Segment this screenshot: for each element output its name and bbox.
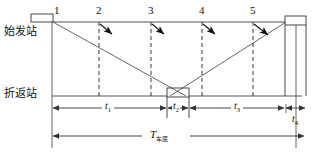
outbound-run-line bbox=[53, 22, 186, 96]
interval-t1-subscript: 1 bbox=[108, 106, 111, 113]
following-train-arrows bbox=[100, 24, 268, 35]
departure-station-label: 始发站 bbox=[4, 26, 37, 37]
train-number-2: 2 bbox=[96, 5, 102, 16]
frame-borders bbox=[52, 18, 296, 148]
headway-dashed-lines bbox=[99, 22, 253, 96]
interval-t1-label: t1 bbox=[102, 101, 114, 114]
origin-station-box bbox=[31, 14, 53, 22]
station-lines bbox=[52, 22, 302, 96]
interval-t4-subscript: 4 bbox=[295, 119, 298, 126]
return-run-line bbox=[170, 22, 286, 96]
interval-t3-label: t3 bbox=[231, 101, 243, 114]
train-number-3: 3 bbox=[148, 5, 154, 16]
interval-t2-label: t2 bbox=[172, 101, 180, 114]
interval-t2-subscript: 2 bbox=[176, 106, 179, 113]
cycle-time-dimension bbox=[53, 129, 304, 143]
train-number-1: 1 bbox=[54, 5, 60, 16]
train-number-5: 5 bbox=[250, 5, 256, 16]
train-number-4: 4 bbox=[199, 5, 205, 16]
turnback-station-label: 折返站 bbox=[4, 88, 37, 99]
cycle-time-subscript: 车底 bbox=[156, 135, 167, 142]
interval-t4-dimension bbox=[286, 104, 305, 113]
interval-t3-subscript: 3 bbox=[237, 106, 240, 113]
interval-t4-label: t4 bbox=[292, 114, 298, 127]
right-station-box bbox=[285, 16, 306, 96]
diagram-canvas: 始发站 折返站 1 2 3 4 5 t1 t2 t3 t4 T车底 bbox=[0, 0, 315, 152]
cycle-time-label: T车底 bbox=[150, 129, 168, 142]
